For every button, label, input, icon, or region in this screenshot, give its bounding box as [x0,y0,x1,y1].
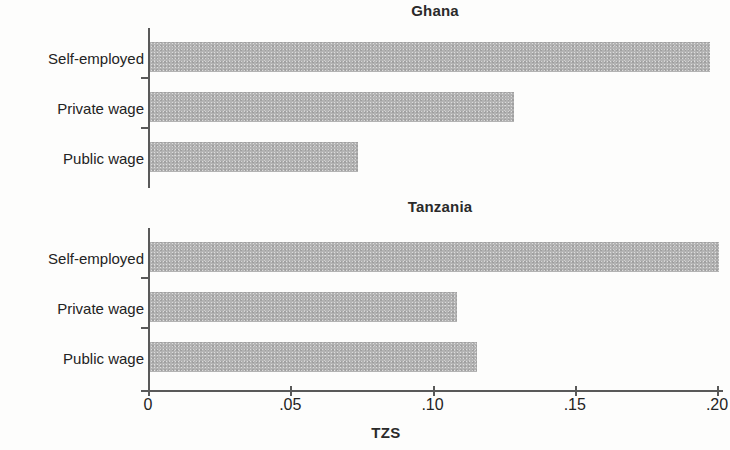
x-axis-tick-2 [433,386,435,396]
x-axis-tick-label-2: .10 [421,396,443,414]
x-axis-tick-4 [717,386,719,396]
x-axis-tick-label-3: .15 [564,396,586,414]
x-axis-title-text: TZS [371,424,401,441]
bar-tanzania-self-employed [150,242,719,272]
bar-tanzania-private-wage [150,292,457,322]
x-axis-tick-3 [575,386,577,396]
bar-tanzania-public-wage [150,342,477,372]
bar-chart-figure: Ghana Self-employed Private wage Public … [0,0,730,450]
y-axis-labels-tanzania: Self-employed Private wage Public wage [0,0,144,450]
x-axis-title: TZS [0,424,730,441]
category-label-tanzania-0: Self-employed [4,251,144,266]
category-label-tanzania-2: Public wage [4,351,144,366]
panel-title-tanzania: Tanzania [340,198,540,215]
panel-title-ghana: Ghana [335,2,535,19]
y-axis-tick-tanzania-2 [141,327,148,329]
x-axis-tick-0 [148,386,150,396]
category-label-tanzania-1: Private wage [4,301,144,316]
bar-ghana-private-wage [150,92,514,122]
bar-ghana-public-wage [150,142,358,172]
x-axis-tick-label-1: .05 [279,396,301,414]
y-axis-tick-tanzania-1 [141,277,148,279]
plot-area-tanzania [148,228,730,388]
plot-area-ghana [148,28,730,188]
x-axis-tick-label-0: 0 [144,396,153,414]
x-axis-tick-label-4: .20 [706,396,728,414]
x-axis-line [141,390,723,392]
bar-ghana-self-employed [150,42,710,72]
x-axis-tick-1 [290,386,292,396]
